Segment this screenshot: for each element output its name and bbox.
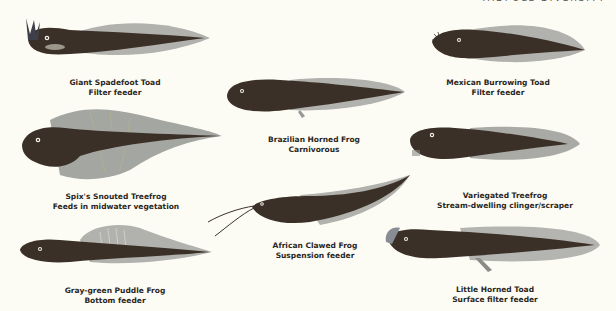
african-clawed-frog-illustration [208, 175, 410, 236]
caption-spixs-snouted-treefrog: Spix's Snouted Treefrog Feeds in midwate… [53, 192, 179, 212]
caption-mexican-burrowing-toad: Mexican Burrowing Toad Filter feeder [446, 78, 550, 98]
brazilian-horned-frog-illustration [227, 78, 405, 118]
feeding-type: Suspension feeder [273, 251, 358, 261]
caption-little-horned-toad: Little Horned Toad Surface filter feeder [452, 285, 538, 305]
feeding-type: Carnivorous [268, 145, 360, 155]
feeding-type: Stream-dwelling clinger/scraper [437, 201, 573, 211]
caption-giant-spadefoot-toad: Giant Spadefoot Toad Filter feeder [69, 78, 160, 98]
tadpole-giant-spadefoot-toad [0, 0, 616, 311]
species-name: Mexican Burrowing Toad [446, 78, 550, 88]
feeding-type: Filter feeder [69, 88, 160, 98]
feeding-type: Filter feeder [446, 88, 550, 98]
giant-spadefoot-toad-illustration [26, 18, 210, 55]
caption-variegated-treefrog: Variegated Treefrog Stream-dwelling clin… [437, 191, 573, 211]
tadpole-illustrations [0, 0, 616, 311]
feeding-type: Feeds in midwater vegetation [53, 202, 179, 212]
mexican-burrowing-toad-illustration [432, 25, 585, 62]
species-name: Brazilian Horned Frog [268, 135, 360, 145]
caption-african-clawed-frog: African Clawed Frog Suspension feeder [273, 241, 358, 261]
species-name: Gray-green Puddle Frog [65, 286, 166, 296]
species-name: Little Horned Toad [452, 285, 538, 295]
species-name: Variegated Treefrog [437, 191, 573, 201]
caption-brazilian-horned-frog: Brazilian Horned Frog Carnivorous [268, 135, 360, 155]
variegated-treefrog-illustration [410, 127, 580, 160]
feeding-type: Surface filter feeder [452, 295, 538, 305]
species-name: African Clawed Frog [273, 241, 358, 251]
caption-gray-green-puddle-frog: Gray-green Puddle Frog Bottom feeder [65, 286, 166, 306]
spixs-snouted-treefrog-illustration [22, 109, 222, 179]
species-name: Giant Spadefoot Toad [69, 78, 160, 88]
little-horned-toad-illustration [386, 227, 600, 272]
feeding-type: Bottom feeder [65, 296, 166, 306]
species-name: Spix's Snouted Treefrog [53, 192, 179, 202]
gray-green-puddle-frog-illustration [20, 225, 212, 263]
